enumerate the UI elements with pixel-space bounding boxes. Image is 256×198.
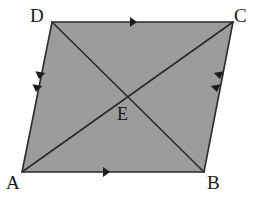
geometry-figure: D C A B E bbox=[0, 0, 256, 198]
vertex-label-b: B bbox=[207, 173, 220, 192]
vertex-label-c: C bbox=[234, 6, 247, 25]
vertex-label-e: E bbox=[117, 105, 128, 124]
vertex-label-d: D bbox=[30, 6, 44, 25]
vertex-label-a: A bbox=[6, 173, 20, 192]
parallelogram-diagram-svg bbox=[0, 0, 256, 198]
